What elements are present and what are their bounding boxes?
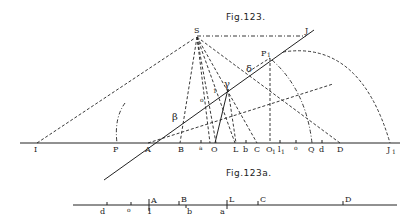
oblique-line [104, 30, 314, 180]
label-s: S [194, 26, 199, 35]
svg-text:L: L [233, 145, 239, 154]
svg-text:o: o [127, 206, 131, 213]
arc-p [116, 103, 125, 143]
svg-text:D: D [337, 145, 343, 154]
svg-text:L: L [229, 195, 235, 204]
ray-s-b [180, 37, 197, 143]
svg-text:A: A [150, 196, 157, 205]
svg-text:C: C [260, 195, 266, 204]
lower-labels-123a: d o 1 b a [100, 206, 225, 216]
svg-text:B: B [178, 145, 184, 154]
svg-text:J: J [386, 145, 390, 154]
label-p1-sub: 1 [267, 51, 271, 58]
line-i-s [37, 38, 195, 143]
label-one: 1 [213, 87, 217, 94]
svg-text:1: 1 [392, 148, 396, 155]
svg-text:d: d [100, 207, 105, 216]
line-gamma-o [215, 89, 228, 143]
svg-text:P: P [113, 145, 119, 154]
label-o-small: o [200, 96, 204, 103]
svg-text:b: b [187, 207, 192, 216]
ray-s-c [197, 37, 257, 143]
svg-text:C: C [254, 145, 260, 154]
svg-text:a: a [199, 144, 203, 151]
svg-text:Q: Q [308, 145, 315, 154]
svg-text:b: b [243, 145, 248, 154]
svg-text:1: 1 [272, 148, 276, 155]
figure-title-123a: Fig.123a. [226, 168, 272, 178]
label-beta: β [172, 111, 178, 122]
svg-text:1: 1 [147, 207, 152, 216]
svg-text:a: a [220, 207, 225, 216]
line-gamma-l [228, 89, 236, 143]
baseline-labels: I P A B a O L b C O 1 l 1 o Q d D J 1 [34, 144, 396, 155]
svg-text:A: A [144, 145, 151, 154]
svg-text:B: B [181, 195, 187, 204]
svg-text:o: o [294, 144, 298, 151]
svg-text:I: I [34, 145, 37, 154]
svg-text:d: d [319, 145, 324, 154]
label-delta: δ [246, 63, 252, 74]
upper-labels-123a: A B L C D [150, 195, 351, 205]
svg-text:D: D [345, 195, 351, 204]
svg-text:O: O [211, 145, 218, 154]
geometry-diagram: Fig.123. S J P 1 δ γ 1 o β I [0, 0, 418, 224]
ray-s-o1 [197, 37, 210, 143]
label-j: J [304, 26, 308, 35]
figure-title-123: Fig.123. [226, 12, 266, 22]
svg-text:1: 1 [281, 148, 285, 155]
label-gamma: γ [224, 78, 230, 89]
